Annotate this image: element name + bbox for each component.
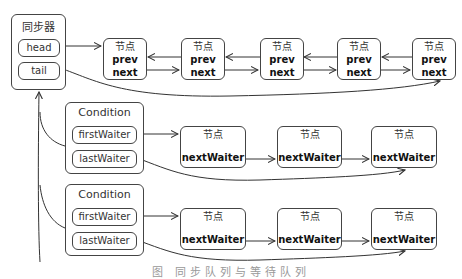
synchronizer-title: 同步器 — [12, 18, 65, 34]
sync-node-4: 节点 prev next — [337, 38, 381, 80]
condition-title: Condition — [66, 188, 143, 201]
node-header: 节点 — [413, 40, 455, 53]
node-header: 节点 — [181, 128, 245, 141]
node-header: 节点 — [278, 128, 341, 141]
node-next: next — [104, 66, 146, 79]
node-next-waiter: nextWaiter — [181, 151, 245, 164]
sync-node-2: 节点 prev next — [181, 38, 225, 80]
node-prev: prev — [261, 53, 303, 66]
wait-node-2-2: 节点 nextWaiter — [277, 208, 342, 250]
node-next-waiter: nextWaiter — [278, 151, 341, 164]
wait-node-2-3: 节点 nextWaiter — [371, 208, 437, 250]
node-next: next — [182, 66, 224, 79]
node-header: 节点 — [278, 210, 341, 223]
node-next: next — [261, 66, 303, 79]
node-header: 节点 — [372, 210, 436, 223]
node-next-waiter: nextWaiter — [372, 151, 436, 164]
node-prev: prev — [338, 53, 380, 66]
node-next: next — [413, 66, 455, 79]
sync-node-1: 节点 prev next — [103, 38, 147, 80]
node-next: next — [338, 66, 380, 79]
wait-node-2-1: 节点 nextWaiter — [180, 208, 246, 250]
condition-box-1: Condition firstWaiter lastWaiter — [65, 102, 144, 174]
wait-node-1-2: 节点 nextWaiter — [277, 126, 342, 168]
node-header: 节点 — [181, 210, 245, 223]
node-header: 节点 — [338, 40, 380, 53]
last-waiter-field: lastWaiter — [72, 232, 137, 250]
tail-field: tail — [18, 62, 60, 80]
wait-node-1-1: 节点 nextWaiter — [180, 126, 246, 168]
wait-node-1-3: 节点 nextWaiter — [371, 126, 437, 168]
first-waiter-field: firstWaiter — [72, 208, 137, 226]
condition-title: Condition — [66, 106, 143, 119]
figure-caption: 图 同步队列与等待队列 — [0, 263, 462, 279]
node-prev: prev — [413, 53, 455, 66]
node-next-waiter: nextWaiter — [372, 233, 436, 246]
head-field: head — [18, 39, 60, 57]
node-header: 节点 — [182, 40, 224, 53]
last-waiter-field: lastWaiter — [72, 150, 137, 168]
node-prev: prev — [182, 53, 224, 66]
first-waiter-field: firstWaiter — [72, 126, 137, 144]
node-header: 节点 — [104, 40, 146, 53]
node-prev: prev — [104, 53, 146, 66]
node-next-waiter: nextWaiter — [278, 233, 341, 246]
node-header: 节点 — [372, 128, 436, 141]
synchronizer-box: 同步器 head tail — [11, 14, 66, 90]
node-next-waiter: nextWaiter — [181, 233, 245, 246]
node-header: 节点 — [261, 40, 303, 53]
sync-node-5: 节点 prev next — [412, 38, 456, 80]
condition-box-2: Condition firstWaiter lastWaiter — [65, 184, 144, 256]
sync-node-3: 节点 prev next — [260, 38, 304, 80]
